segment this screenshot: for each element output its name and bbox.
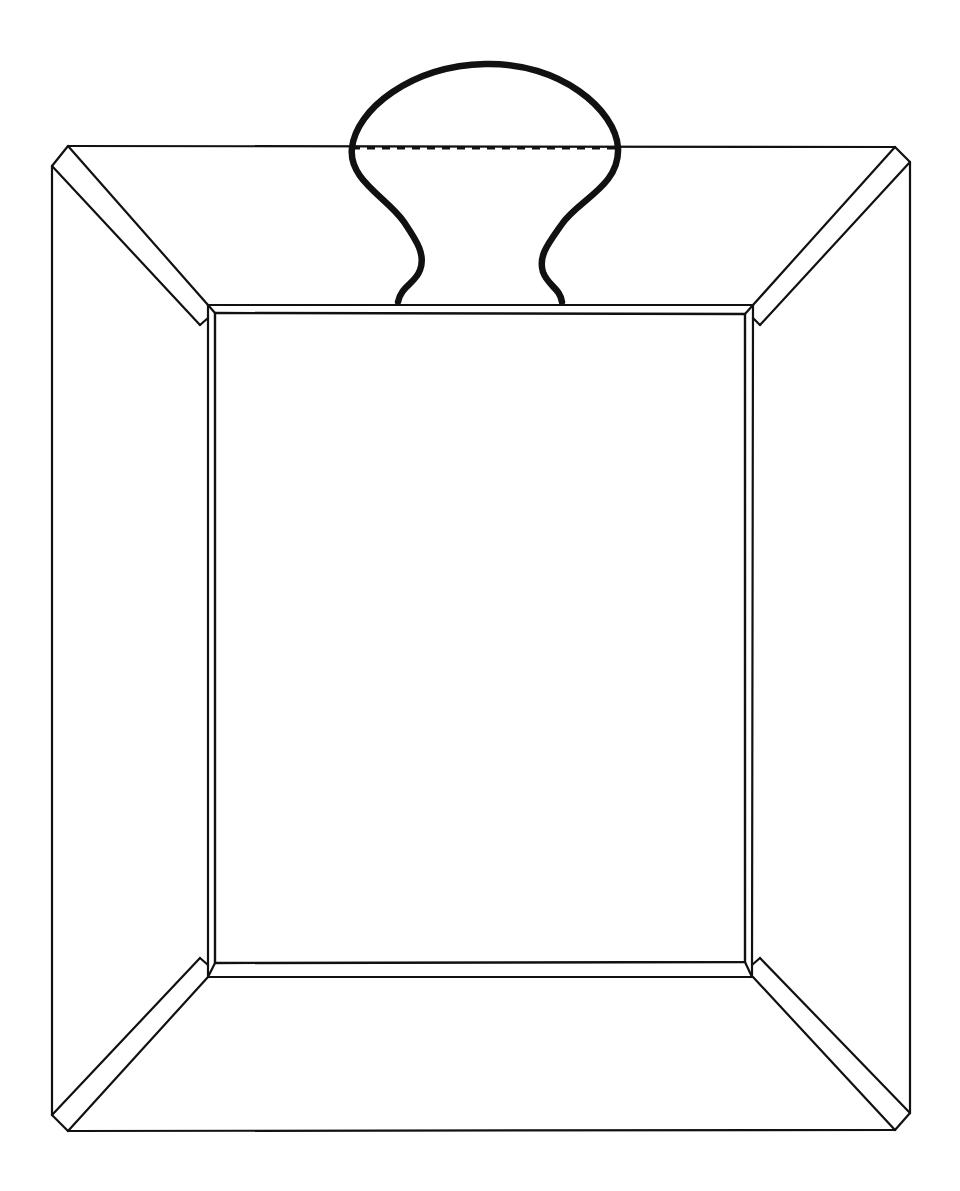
drawing-canvas (0, 0, 960, 1191)
tray-with-knob-handle-line-drawing (0, 0, 960, 1191)
outer-frame-top-edge (68, 146, 895, 147)
outer-frame-bottom-edge (68, 1130, 895, 1131)
background-rect (0, 0, 960, 1191)
